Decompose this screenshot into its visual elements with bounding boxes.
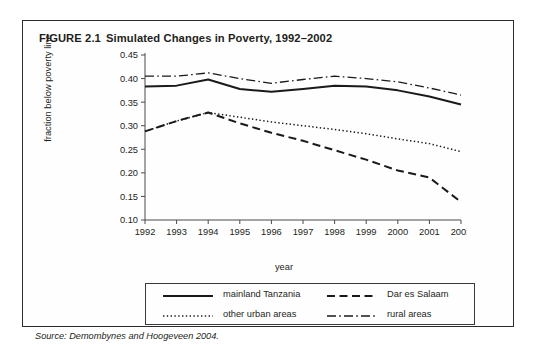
figure-title-text: Simulated Changes in Poverty, 1992–2002: [106, 32, 332, 44]
y-tick-label: 0.45: [120, 50, 138, 60]
figure-frame: FIGURE 2.1Simulated Changes in Poverty, …: [22, 20, 514, 327]
x-axis-title: year: [101, 262, 467, 272]
x-tick-label: 1993: [166, 227, 187, 237]
x-tick-label: 1995: [229, 227, 250, 237]
x-tick-label: 1992: [135, 227, 156, 237]
legend-label: rural areas: [387, 309, 431, 319]
legend-label: mainland Tanzania: [223, 289, 300, 299]
solid-line-swatch: [162, 288, 214, 300]
legend-item: mainland Tanzania: [146, 288, 310, 300]
x-tick-label: 1998: [324, 227, 345, 237]
x-tick-label: 1997: [293, 227, 314, 237]
y-axis-title: fraction below poverty line: [43, 13, 53, 163]
series-line: [145, 73, 461, 95]
legend-grid: mainland TanzaniaDar es Salaamother urba…: [146, 284, 474, 324]
legend-label: other urban areas: [223, 309, 296, 319]
x-tick-label: 1994: [198, 227, 219, 237]
dashdot-line-swatch: [326, 308, 378, 320]
x-tick-label: 1999: [356, 227, 377, 237]
series-line: [145, 113, 461, 152]
dashed-line-swatch: [326, 288, 378, 300]
x-tick-label: 2002: [451, 227, 467, 237]
y-tick-label: 0.25: [120, 145, 138, 155]
source-note: Source: Demombynes and Hoogeveen 2004.: [35, 331, 219, 341]
chart-legend: mainland TanzaniaDar es Salaamother urba…: [145, 283, 475, 325]
dotted-line-swatch: [162, 308, 214, 320]
line-chart: 0.100.150.200.250.300.350.400.4519921993…: [101, 47, 467, 242]
y-tick-label: 0.20: [120, 168, 138, 178]
x-tick-label: 2000: [387, 227, 408, 237]
y-tick-label: 0.35: [120, 98, 138, 108]
y-tick-label: 0.30: [120, 121, 138, 131]
source-text: Source: Demombynes and Hoogeveen 2004.: [35, 331, 219, 341]
legend-item: Dar es Salaam: [310, 288, 474, 300]
series-line: [145, 80, 461, 105]
legend-item: other urban areas: [146, 308, 310, 320]
y-tick-label: 0.10: [120, 215, 138, 225]
legend-item: rural areas: [310, 308, 474, 320]
legend-label: Dar es Salaam: [387, 289, 449, 299]
figure-title: FIGURE 2.1Simulated Changes in Poverty, …: [39, 32, 332, 44]
y-tick-label: 0.15: [120, 192, 138, 202]
x-tick-label: 2001: [419, 227, 440, 237]
y-tick-label: 0.40: [120, 74, 138, 84]
x-tick-label: 1996: [261, 227, 282, 237]
series-line: [145, 113, 461, 203]
plot-area: 0.100.150.200.250.300.350.400.4519921993…: [101, 47, 467, 242]
